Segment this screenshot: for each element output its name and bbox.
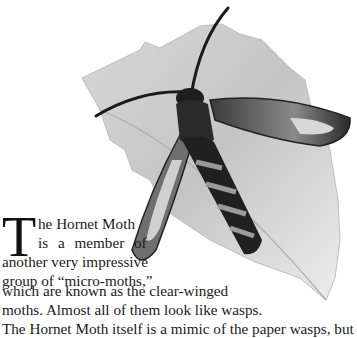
text-line-6: moths. Almost all of them look like wasp…	[2, 300, 262, 319]
text-line-7: The Hornet Moth itself is a mimic of the…	[2, 319, 354, 338]
text-line-2: is a member of	[38, 233, 147, 252]
text-line-1: he Hornet Moth	[38, 214, 135, 233]
text-line-3: another very impressive	[2, 252, 148, 271]
text-line-5: which are known as the clear-winged	[2, 281, 228, 300]
